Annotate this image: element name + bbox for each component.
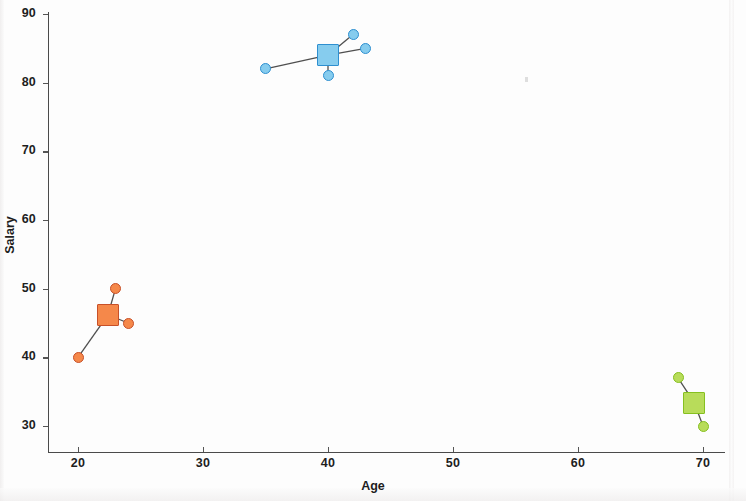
data-point-cluster-blue[interactable]: [323, 70, 334, 81]
scatter-plot-screenshot: 30405060708090 203040506070 Salary Age: [0, 0, 746, 501]
data-point-cluster-green[interactable]: [673, 372, 684, 383]
data-point-cluster-green[interactable]: [698, 421, 709, 432]
data-point-cluster-orange[interactable]: [73, 352, 84, 363]
centroid-marker-cluster-orange[interactable]: [97, 304, 119, 326]
centroid-marker-cluster-green[interactable]: [683, 392, 705, 414]
plot-area: [0, 0, 746, 501]
data-point-cluster-blue[interactable]: [360, 43, 371, 54]
cluster-link-lines: [0, 0, 746, 501]
data-point-cluster-blue[interactable]: [348, 29, 359, 40]
data-point-cluster-orange[interactable]: [123, 318, 134, 329]
centroid-marker-cluster-blue[interactable]: [317, 44, 339, 66]
